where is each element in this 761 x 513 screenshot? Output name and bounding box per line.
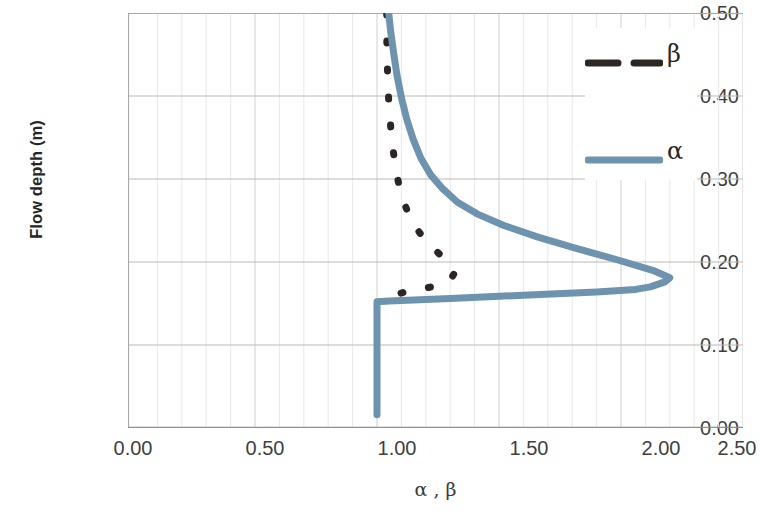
legend-label-alpha: α — [667, 137, 683, 165]
x-tick-label-3: 1.50 — [484, 437, 574, 460]
y-axis-title: Flow depth (m) — [27, 60, 46, 300]
x-axis-title: α , β — [128, 478, 743, 500]
legend-item-alpha: α — [585, 141, 697, 167]
x-tick-label-2: 1.00 — [352, 437, 442, 460]
chart-legend: β α — [585, 28, 697, 180]
x-tick-label-5: 2.50 — [692, 437, 761, 460]
legend-label-beta: β — [667, 40, 681, 68]
x-tick-label-1: 0.50 — [220, 437, 310, 460]
x-tick-label-0: 0.00 — [88, 437, 178, 460]
legend-item-beta: β — [585, 44, 697, 70]
legend-swatch-alpha — [585, 150, 663, 158]
legend-swatch-beta — [585, 53, 663, 61]
